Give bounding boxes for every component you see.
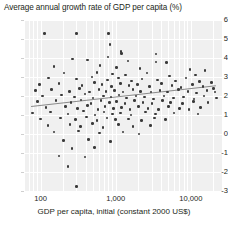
y-tick-mark (21, 134, 24, 135)
data-point (43, 32, 46, 35)
data-point (85, 116, 88, 119)
x-gridline (152, 20, 153, 191)
y-tick-label: -1 (208, 149, 228, 157)
data-point (86, 104, 89, 107)
data-point (77, 130, 80, 133)
data-point (160, 82, 163, 85)
data-point (167, 105, 170, 108)
data-point (180, 86, 183, 89)
data-point (155, 61, 158, 64)
data-point (45, 106, 48, 109)
data-point (187, 90, 190, 93)
data-point (137, 105, 140, 108)
x-gridline (191, 20, 193, 191)
data-point (212, 87, 215, 90)
data-point (152, 98, 155, 101)
data-point (104, 105, 107, 108)
data-point (139, 67, 142, 70)
x-gridline (116, 20, 118, 191)
data-point (36, 100, 39, 103)
data-point (169, 101, 172, 104)
data-point (112, 107, 115, 110)
data-point (139, 90, 142, 93)
y-tick-mark (21, 58, 24, 59)
data-point (119, 82, 122, 85)
data-point (171, 84, 174, 87)
data-point (91, 122, 94, 125)
data-point (62, 139, 65, 142)
data-point (129, 108, 132, 111)
data-point (109, 43, 112, 46)
data-point (100, 99, 103, 102)
y-tick-label: 2 (208, 92, 228, 100)
x-gridline (184, 20, 185, 191)
x-tick-label: 1,000 (106, 194, 125, 203)
data-point (130, 80, 133, 83)
data-point (191, 83, 194, 86)
data-point (97, 108, 100, 111)
data-point (207, 101, 210, 104)
x-gridline (76, 20, 77, 191)
x-gridline (161, 20, 162, 191)
data-point (93, 81, 96, 84)
y-tick-mark (21, 20, 24, 21)
data-point (55, 99, 58, 102)
chart-title: Average annual growth rate of GDP per ca… (4, 2, 182, 13)
data-point (151, 102, 154, 105)
data-point (74, 118, 77, 121)
data-point (128, 84, 131, 87)
data-point (195, 92, 198, 95)
data-point (75, 78, 78, 81)
x-gridline (174, 20, 175, 191)
y-tick-mark (21, 153, 24, 154)
y-gridline (24, 134, 222, 135)
data-point (178, 107, 181, 110)
data-point (122, 91, 125, 94)
x-gridline (93, 20, 94, 191)
data-point (76, 107, 79, 110)
data-point (132, 125, 135, 128)
data-point (53, 65, 56, 68)
x-gridline (24, 20, 25, 191)
data-point (136, 83, 139, 86)
y-tick-label: -2 (208, 168, 228, 176)
y-tick-label: -3 (208, 187, 228, 195)
data-point (120, 106, 123, 109)
data-point (49, 111, 52, 114)
data-point (82, 110, 85, 113)
data-point (90, 102, 93, 105)
y-gridline (24, 58, 222, 59)
data-point (87, 138, 90, 141)
data-point (125, 97, 128, 100)
data-point (147, 107, 150, 110)
data-point (192, 100, 195, 103)
x-gridline (112, 20, 113, 191)
data-point (122, 131, 125, 134)
data-point (199, 106, 202, 109)
y-tick-mark (21, 172, 24, 173)
data-point (115, 66, 118, 69)
data-point (164, 118, 167, 121)
y-tick-mark (21, 96, 24, 97)
data-point (146, 72, 149, 75)
data-point (165, 61, 168, 64)
data-point (105, 90, 108, 93)
data-point (157, 108, 160, 111)
data-point (172, 97, 175, 100)
data-point (204, 69, 207, 72)
data-point (113, 89, 116, 92)
data-point (53, 131, 56, 134)
data-point (117, 123, 120, 126)
y-gridline (24, 77, 222, 78)
y-gridline (24, 115, 222, 116)
data-point (58, 82, 61, 85)
data-point (71, 147, 74, 150)
data-point (120, 52, 123, 55)
data-point (161, 99, 164, 102)
data-point (140, 119, 143, 122)
data-point (59, 117, 62, 120)
data-point (153, 117, 156, 120)
data-point (34, 89, 37, 92)
data-point (64, 105, 67, 108)
data-point (96, 119, 99, 122)
